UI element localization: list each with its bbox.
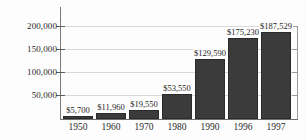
x-axis-label-1990: 1990 [195, 122, 225, 132]
bar-group-1980: $53,550 [162, 7, 192, 119]
bar-group-1996: $175,230 [228, 7, 258, 119]
x-axis-label-1996: 1996 [228, 122, 258, 132]
bar-label-1960: $11,960 [96, 103, 125, 112]
bar-1997 [261, 32, 291, 119]
x-axis-label-1970: 1970 [129, 122, 159, 132]
bar-label-1997: $187,529 [259, 22, 293, 31]
bar-chart: 200,000 150,000 100,000 50,000 $5,700 $1… [0, 0, 306, 140]
x-axis-label-1950: 1950 [63, 122, 93, 132]
bar-1980 [162, 94, 192, 119]
bar-group-1997: $187,529 [261, 7, 291, 119]
right-tick-50000 [292, 95, 298, 96]
right-tick-100000 [292, 72, 298, 73]
bar-group-1970: $19,550 [129, 7, 159, 119]
bar-group-1960: $11,960 [96, 7, 126, 119]
bar-group-1990: $129,590 [195, 7, 225, 119]
bar-1970 [129, 110, 159, 119]
bar-label-1980: $53,550 [162, 84, 192, 93]
right-axis-line [297, 26, 298, 120]
bar-group-1950: $5,700 [63, 7, 93, 119]
y-axis-label-50000: 50,000 [32, 91, 57, 100]
y-axis-label-150000: 150,000 [27, 45, 57, 54]
y-axis-line [60, 7, 61, 120]
bar-1950 [63, 116, 93, 119]
bar-label-1950: $5,700 [65, 106, 90, 115]
bar-1990 [195, 59, 225, 119]
y-axis-label-200000: 200,000 [27, 22, 57, 31]
bar-label-1970: $19,550 [129, 100, 159, 109]
x-axis-label-1997: 1997 [261, 122, 291, 132]
right-tick-150000 [292, 49, 298, 50]
x-axis-label-1960: 1960 [96, 122, 126, 132]
x-axis-line [61, 119, 298, 120]
bar-label-1996: $175,230 [226, 28, 260, 37]
bar-1960 [96, 113, 126, 119]
bar-1996 [228, 38, 258, 119]
y-axis-label-100000: 100,000 [27, 68, 57, 77]
bar-label-1990: $129,590 [193, 49, 227, 58]
x-axis-label-1980: 1980 [162, 122, 192, 132]
